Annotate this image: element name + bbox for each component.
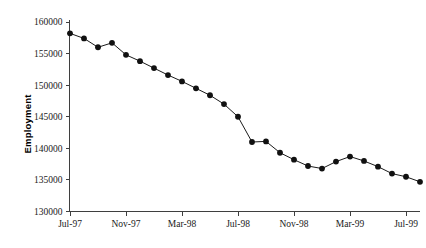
data-point-marker [221,101,227,107]
x-tick-label: Jul-98 [226,219,250,229]
plot-area: 1300001350001400001450001500001550001600… [0,0,426,248]
data-point-marker [389,171,395,177]
data-point-marker [81,36,87,42]
x-axis-ticks: Jul-97Nov-97Mar-98Jul-98Nov-98Mar-99Jul-… [58,212,418,229]
y-axis-ticks: 1300001350001400001450001500001550001600… [34,17,70,217]
data-point-marker [165,72,171,78]
employment-data-points [67,30,423,184]
data-point-marker [249,139,255,145]
employment-series-line [70,33,420,181]
data-point-marker [305,163,311,169]
y-tick-label: 130000 [34,207,63,217]
bottom-caption [8,236,128,246]
y-tick-label: 150000 [34,81,63,91]
x-tick-label: Nov-98 [279,219,308,229]
data-point-marker [277,150,283,156]
data-point-marker [361,158,367,164]
data-point-marker [319,166,325,172]
y-tick-label: 145000 [34,112,63,122]
data-point-marker [333,159,339,165]
x-tick-label: Jul-99 [394,219,418,229]
data-point-marker [193,85,199,91]
y-tick-label: 140000 [34,144,63,154]
data-point-marker [207,92,213,98]
data-point-marker [109,40,115,46]
data-point-marker [123,52,129,58]
data-point-marker [235,114,241,120]
data-point-marker [67,30,73,36]
data-point-marker [151,65,157,71]
data-point-marker [291,157,297,163]
data-point-marker [263,138,269,144]
y-tick-label: 155000 [34,49,63,59]
data-point-marker [179,78,185,84]
y-tick-label: 160000 [34,17,63,27]
x-tick-label: Nov-97 [111,219,140,229]
data-point-marker [417,179,423,185]
data-point-marker [375,164,381,170]
data-point-marker [137,58,143,64]
x-tick-label: Mar-98 [168,219,197,229]
data-point-marker [403,174,409,180]
y-tick-label: 135000 [34,175,63,185]
data-point-marker [347,154,353,160]
x-tick-label: Jul-97 [58,219,82,229]
x-tick-label: Mar-99 [336,219,365,229]
data-point-marker [95,44,101,50]
employment-line-chart: Employment 13000013500014000014500015000… [0,0,426,248]
